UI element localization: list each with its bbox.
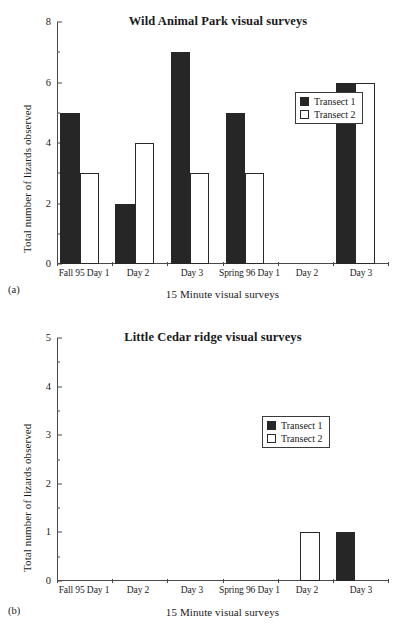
x-tick xyxy=(223,262,224,266)
x-tick-label: Fall 95 Day 1 xyxy=(57,268,111,278)
legend-label-transect-1: Transect 1 xyxy=(281,420,323,431)
bar-transect-1 xyxy=(60,113,79,264)
y-tick-label: 5 xyxy=(46,333,57,344)
x-tick xyxy=(333,579,334,583)
x-tick-label: Day 2 xyxy=(111,268,165,278)
legend-item-transect-2: Transect 2 xyxy=(300,109,356,120)
x-axis-labels-b: Fall 95 Day 1Day 2Day 3Spring 96 Day 1Da… xyxy=(57,585,388,595)
plot-area-b: 012345 Transect 1 Transect 2 xyxy=(57,338,388,581)
legend-b: Transect 1 Transect 2 xyxy=(262,416,330,448)
bar-group xyxy=(278,22,333,264)
legend-swatch-open-icon xyxy=(267,434,276,443)
x-tick xyxy=(57,579,58,583)
y-tick-label: 3 xyxy=(46,430,57,441)
panel-label-a: (a) xyxy=(8,284,20,295)
y-tick-label: 1 xyxy=(46,527,57,538)
x-tick-label: Day 3 xyxy=(334,268,388,278)
x-tick xyxy=(278,579,279,583)
x-tick xyxy=(167,579,168,583)
x-tick xyxy=(57,262,58,266)
bar-group xyxy=(57,338,112,581)
bar-transect-2 xyxy=(80,173,99,264)
legend-swatch-filled-icon xyxy=(300,97,309,106)
x-tick-label: Day 2 xyxy=(280,585,334,595)
panel-label-b: (b) xyxy=(8,605,20,616)
bar-group xyxy=(223,338,278,581)
x-tick xyxy=(112,262,113,266)
y-tick-label: 4 xyxy=(46,138,57,149)
y-axis-label-a: Total number of lizards observed xyxy=(21,105,33,253)
bar-group xyxy=(112,338,167,581)
y-axis-label-b: Total number of lizards observed xyxy=(21,424,33,572)
legend-item-transect-1: Transect 1 xyxy=(267,420,323,431)
plot-area-a: 02468 Transect 1 Transect 2 xyxy=(57,22,388,264)
y-tick-label: 2 xyxy=(46,479,57,490)
bar-transect-1 xyxy=(171,52,190,264)
bar-group xyxy=(223,22,278,264)
x-axis-labels-a: Fall 95 Day 1Day 2Day 3Spring 96 Day 1Da… xyxy=(57,268,388,278)
x-tick xyxy=(112,579,113,583)
x-tick-label: Day 3 xyxy=(165,268,219,278)
legend-a: Transect 1 Transect 2 xyxy=(295,92,363,124)
y-tick-label: 0 xyxy=(46,259,57,270)
x-tick-label: Day 2 xyxy=(111,585,165,595)
bar-transect-2 xyxy=(135,143,154,264)
legend-label-transect-2: Transect 2 xyxy=(314,109,356,120)
bar-group xyxy=(278,338,333,581)
legend-item-transect-1: Transect 1 xyxy=(300,96,356,107)
legend-label-transect-1: Transect 1 xyxy=(314,96,356,107)
bar-transect-1 xyxy=(115,204,134,265)
bar-transect-1 xyxy=(336,532,355,581)
x-axis-title-a: 15 Minute visual surveys xyxy=(57,288,388,300)
bar-group xyxy=(57,22,112,264)
legend-swatch-filled-icon xyxy=(267,421,276,430)
bar-transect-2 xyxy=(245,173,264,264)
y-tick-label: 8 xyxy=(46,17,57,28)
bar-group xyxy=(167,22,222,264)
x-tick xyxy=(388,579,389,583)
y-tick-label: 4 xyxy=(46,381,57,392)
x-tick-label: Day 3 xyxy=(165,585,219,595)
x-tick-label: Day 2 xyxy=(280,268,334,278)
bar-group xyxy=(167,338,222,581)
x-tick xyxy=(388,262,389,266)
y-tick-label: 2 xyxy=(46,198,57,209)
x-tick-label: Spring 96 Day 1 xyxy=(219,585,280,595)
x-tick xyxy=(278,262,279,266)
x-tick xyxy=(223,579,224,583)
bar-transect-1 xyxy=(226,113,245,264)
x-tick-label: Fall 95 Day 1 xyxy=(57,585,111,595)
x-tick-label: Spring 96 Day 1 xyxy=(219,268,280,278)
legend-label-transect-2: Transect 2 xyxy=(281,433,323,444)
bar-group xyxy=(112,22,167,264)
x-tick xyxy=(333,262,334,266)
y-tick-label: 0 xyxy=(46,576,57,587)
figure-panel-b: Little Cedar ridge visual surveys Total … xyxy=(0,310,396,631)
bar-transect-2 xyxy=(190,173,209,264)
x-tick-label: Day 3 xyxy=(334,585,388,595)
x-axis-title-b: 15 Minute visual surveys xyxy=(57,606,388,618)
figure-panel-a: Wild Animal Park visual surveys Total nu… xyxy=(0,0,396,310)
bar-groups-a xyxy=(57,22,388,264)
bar-transect-2 xyxy=(300,532,319,581)
bar-group xyxy=(333,22,388,264)
legend-swatch-open-icon xyxy=(300,110,309,119)
legend-item-transect-2: Transect 2 xyxy=(267,433,323,444)
bar-groups-b xyxy=(57,338,388,581)
bar-group xyxy=(333,338,388,581)
y-tick-label: 6 xyxy=(46,77,57,88)
x-tick xyxy=(167,262,168,266)
